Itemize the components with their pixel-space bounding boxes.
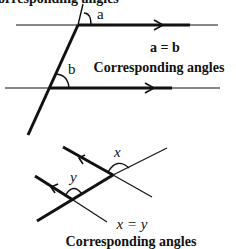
top-equation: a = b xyxy=(150,40,180,55)
angle-a-label: a xyxy=(97,6,104,22)
transversal-top xyxy=(78,4,83,25)
corresponding-angles-diagram: Corresponding angles a b a = b Correspon… xyxy=(0,0,236,249)
angle-a-arc xyxy=(84,13,91,25)
parallel-line-lower-b xyxy=(35,176,73,200)
top-caption: Corresponding angles xyxy=(94,60,225,75)
parallel-line-lower-b-thin xyxy=(73,200,107,222)
top-figure: a b a = b Corresponding angles xyxy=(5,4,225,135)
angle-b-label: b xyxy=(68,61,76,77)
bottom-caption: Corresponding angles xyxy=(66,234,197,249)
transversal-bottom-thin xyxy=(113,148,167,175)
parallel-line-upper-b-thin xyxy=(113,175,152,197)
angle-y-label: y xyxy=(68,169,77,185)
bottom-figure: x y x = y Corresponding angles xyxy=(35,144,197,249)
bottom-equation: x = y xyxy=(116,216,148,232)
transversal xyxy=(28,25,78,135)
angle-x-arc xyxy=(108,163,129,172)
angle-x-label: x xyxy=(113,144,121,160)
